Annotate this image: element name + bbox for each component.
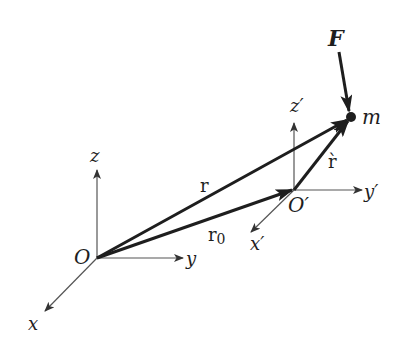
mass-particle	[346, 112, 356, 122]
force-vector	[339, 52, 349, 111]
origin-label: O	[74, 245, 90, 269]
z-prime-axis-label: z′	[289, 95, 304, 116]
x-axis-label: x	[28, 313, 38, 334]
reference-frames-diagram: O z y x O′ z′ y′ x′ r r0 r̀ m F	[0, 0, 414, 356]
mass-label: m	[362, 105, 381, 129]
y-axis-label: y	[185, 248, 197, 269]
x-prime-axis-label: x′	[250, 233, 264, 254]
fixed-frame-axes	[45, 170, 183, 311]
vector-r-prime	[294, 121, 348, 190]
vector-r-prime-label: r̀	[328, 151, 337, 172]
y-prime-axis-label: y′	[363, 181, 378, 202]
vector-r0-subscript: 0	[217, 231, 226, 247]
vector-r-label: r	[200, 175, 209, 196]
vector-r0-label: r0	[208, 224, 226, 247]
z-axis-label: z	[89, 145, 100, 166]
force-label: F	[327, 25, 345, 51]
origin-prime-label: O′	[288, 193, 309, 217]
